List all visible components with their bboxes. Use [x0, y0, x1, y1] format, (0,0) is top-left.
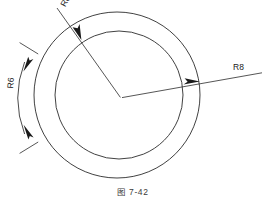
figure-caption: 图 7-42: [0, 185, 265, 197]
technical-drawing-figure: R8 R8 R6 图 7-42: [0, 0, 265, 203]
arc-dimension-label: R6: [6, 77, 16, 89]
engineering-drawing-canvas: [0, 0, 265, 203]
arrowhead-outer-radius: [184, 78, 200, 84]
arrowhead-arc-bottom: [24, 125, 34, 140]
outer-circle: [34, 12, 200, 178]
arrowhead-arc-top: [23, 57, 33, 72]
dimension-arc: [18, 62, 25, 134]
outer-radius-label: R8: [233, 63, 244, 72]
leader-line-outer-radius: [122, 73, 262, 98]
extension-line-top: [20, 43, 39, 54]
leader-line-inner-radius: [57, 8, 120, 97]
extension-line-bottom: [20, 142, 39, 153]
